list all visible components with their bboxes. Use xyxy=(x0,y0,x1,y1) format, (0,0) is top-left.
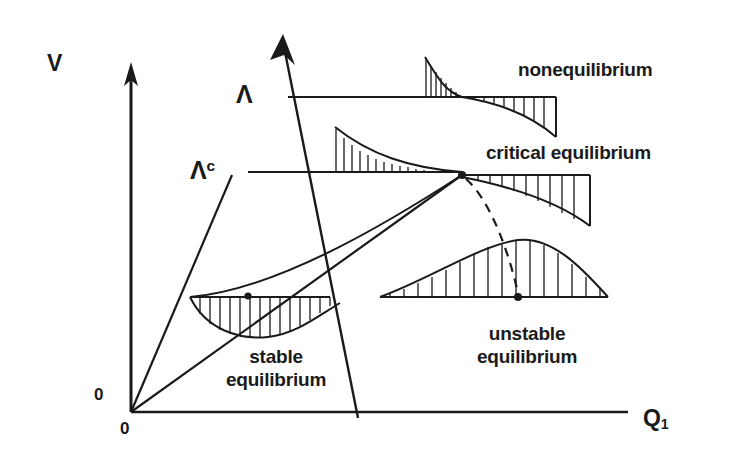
lambda-right-curve xyxy=(462,97,556,137)
lambda-critical-superscript: c xyxy=(206,157,214,174)
region-label-stable-equilibrium: stable equilibrium xyxy=(201,345,351,391)
potential-energy-diagram: V Q1 0 0 Λ Λc nonequilibrium critical eq… xyxy=(0,0,731,458)
unstable-hump-curve xyxy=(380,240,608,297)
lambda-label-glyph: Λ xyxy=(236,80,252,108)
unstable-equilibrium-group xyxy=(380,240,608,297)
lambda-level-group xyxy=(288,57,556,137)
lambda-critical-label: Λc xyxy=(190,156,215,185)
y-axis-label: V xyxy=(47,50,62,77)
x-axis-label: Q1 xyxy=(643,405,668,432)
x-axis-label-main: Q xyxy=(643,405,661,431)
region-label-stable-line2: equilibrium xyxy=(201,368,351,391)
region-label-unstable-line2: equilibrium xyxy=(452,345,602,368)
region-label-unstable-line1: unstable xyxy=(452,322,602,345)
region-label-nonequilibrium: nonequilibrium xyxy=(518,58,652,81)
load-path-arrowhead xyxy=(270,34,295,65)
region-label-stable-line1: stable xyxy=(201,345,351,368)
origin-label-y: 0 xyxy=(94,385,103,405)
equilibrium-markers xyxy=(244,171,522,301)
stable-hatch xyxy=(200,297,330,338)
x-axis-label-subscript: 1 xyxy=(661,416,669,432)
stable-equilibrium-group xyxy=(190,297,340,338)
region-label-critical-equilibrium: critical equilibrium xyxy=(486,141,651,164)
origin-label-x: 0 xyxy=(120,419,129,439)
unstable-point-marker xyxy=(514,293,522,301)
unstable-hatch xyxy=(390,240,600,297)
critical-right-hatch xyxy=(478,175,574,219)
critical-point-marker xyxy=(458,171,466,179)
region-label-unstable-equilibrium: unstable equilibrium xyxy=(452,322,602,368)
lambda-c-left-curve xyxy=(335,127,462,172)
lambda-c-left-hatch xyxy=(336,129,424,172)
stable-point-marker xyxy=(244,292,251,299)
lambda-label: Λ xyxy=(236,80,252,109)
lambda-critical-label-glyph: Λ xyxy=(190,156,206,184)
